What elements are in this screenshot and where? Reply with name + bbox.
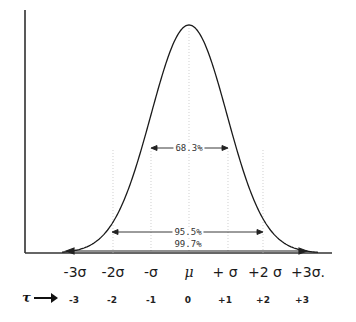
t-value: +2 (256, 295, 270, 305)
tick-minus-1-sigma: -σ (144, 264, 158, 280)
tick-plus-1-sigma: + σ (212, 264, 237, 280)
t-value: -1 (146, 295, 156, 305)
pct-95-label: 95.5% (172, 227, 203, 237)
tick-plus-3-sigma: +3σ. (291, 264, 325, 280)
t-value: 0 (185, 295, 191, 305)
t-value: -2 (107, 295, 117, 305)
pct-99-label: 99.7% (172, 239, 203, 249)
t-value: +3 (295, 295, 309, 305)
tau-label: τ (22, 290, 31, 305)
tick-plus-2-sigma: +2 σ (248, 264, 282, 280)
normal-curve (62, 25, 318, 252)
tick-mu: μ (184, 264, 193, 280)
pct-68-label: 68.3% (173, 143, 204, 153)
sigma-gridlines (113, 28, 263, 253)
tick-minus-2-sigma: -2σ (102, 264, 125, 280)
arrow-right-icon (34, 297, 52, 299)
t-value: +1 (218, 295, 232, 305)
t-value: -3 (69, 295, 79, 305)
tick-minus-3-sigma: -3σ (64, 264, 87, 280)
